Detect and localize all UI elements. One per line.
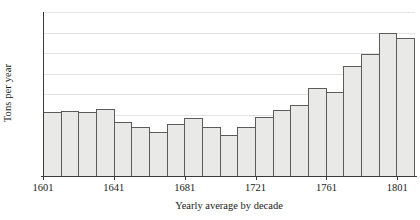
- bar: [396, 38, 415, 176]
- y-axis-line: [43, 12, 44, 177]
- bar: [308, 88, 327, 176]
- bar: [167, 124, 186, 176]
- x-tick-label: 1681: [162, 182, 208, 193]
- bar: [43, 112, 62, 176]
- bar: [220, 135, 239, 176]
- bar: [290, 105, 309, 176]
- x-tick-mark: [185, 176, 186, 180]
- x-tick-mark: [397, 176, 398, 180]
- bar: [326, 92, 345, 176]
- bar: [361, 54, 380, 176]
- x-axis-title: Yearly average by decade: [43, 200, 415, 211]
- bar: [61, 111, 80, 176]
- bar: [184, 118, 203, 176]
- bar: [255, 117, 274, 176]
- x-tick-label: 1641: [91, 182, 137, 193]
- bar: [273, 110, 292, 176]
- x-axis-tick-labels: 160116411681172117611801: [43, 176, 415, 198]
- bar: [96, 109, 115, 176]
- x-tick-mark: [326, 176, 327, 180]
- bar: [149, 132, 168, 176]
- bar: [237, 127, 256, 176]
- bar: [78, 112, 97, 176]
- bar: [379, 33, 398, 177]
- bar-chart: Tons per year 0100200300400500600700800 …: [0, 0, 420, 220]
- plot-area: [43, 12, 415, 176]
- bar: [114, 122, 133, 176]
- bar-series: [43, 12, 415, 176]
- x-tick-label: 1601: [20, 182, 66, 193]
- x-tick-label: 1801: [374, 182, 420, 193]
- x-tick-mark: [256, 176, 257, 180]
- x-tick-mark: [114, 176, 115, 180]
- x-tick-mark: [43, 176, 44, 180]
- bar: [343, 66, 362, 176]
- x-tick-label: 1761: [303, 182, 349, 193]
- x-tick-label: 1721: [233, 182, 279, 193]
- bar: [202, 127, 221, 176]
- bar: [131, 127, 150, 176]
